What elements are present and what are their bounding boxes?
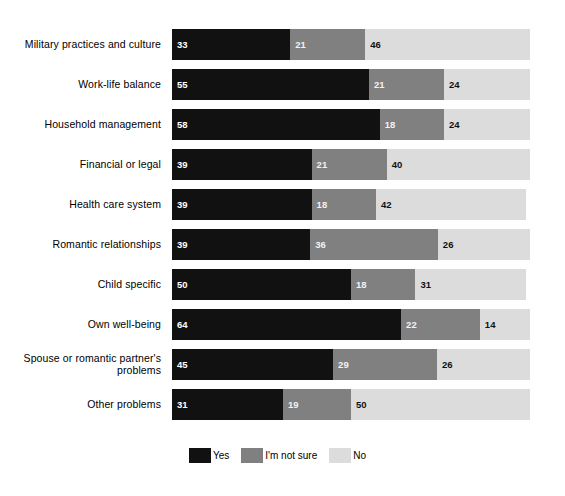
bar-segment: 24	[444, 109, 530, 140]
bar-segment: 21	[290, 29, 365, 60]
stacked-bar: 501831	[172, 269, 530, 300]
bar-segment: 29	[333, 349, 437, 380]
stacked-bar-chart: Military practices and culture332146Work…	[0, 0, 565, 496]
stacked-bar: 642214	[172, 309, 530, 340]
bar-segment: 22	[401, 309, 480, 340]
bar-segment: 50	[172, 269, 351, 300]
category-label: Health care system	[0, 198, 172, 211]
bar-value-label: 31	[172, 399, 188, 410]
bar-value-label: 42	[376, 199, 392, 210]
bar-segment: 33	[172, 29, 290, 60]
bar-segment: 55	[172, 69, 369, 100]
stacked-bar: 452926	[172, 349, 530, 380]
category-label: Financial or legal	[0, 158, 172, 171]
category-label: Romantic relationships	[0, 238, 172, 251]
stacked-bar: 581824	[172, 109, 530, 140]
bar-value-label: 31	[415, 279, 431, 290]
bar-segment: 18	[312, 189, 376, 220]
bar-segment: 14	[480, 309, 530, 340]
bar-segment: 26	[438, 229, 530, 260]
bar-segment: 40	[387, 149, 530, 180]
stacked-bar: 392140	[172, 149, 530, 180]
chart-row: Other problems311950	[0, 384, 565, 424]
bar-value-label: 46	[365, 39, 381, 50]
bar-value-label: 29	[333, 359, 349, 370]
legend-swatch-icon	[329, 448, 351, 463]
bar-value-label: 21	[369, 79, 385, 90]
bar-value-label: 18	[351, 279, 367, 290]
bar-value-label: 26	[438, 239, 454, 250]
bar-value-label: 21	[312, 159, 328, 170]
bar-value-label: 55	[172, 79, 188, 90]
bar-segment: 36	[310, 229, 438, 260]
chart-row: Financial or legal392140	[0, 144, 565, 184]
bar-value-label: 39	[172, 199, 188, 210]
chart-row: Child specific501831	[0, 264, 565, 304]
bar-segment: 21	[312, 149, 387, 180]
chart-row: Military practices and culture332146	[0, 24, 565, 64]
chart-row: Spouse or romantic partner's problems452…	[0, 344, 565, 384]
category-label: Own well-being	[0, 318, 172, 331]
legend-label: Yes	[211, 450, 239, 461]
legend-label: No	[351, 450, 376, 461]
bar-value-label: 36	[310, 239, 326, 250]
bar-segment: 45	[172, 349, 333, 380]
bar-value-label: 21	[290, 39, 306, 50]
stacked-bar: 391842	[172, 189, 530, 220]
bar-segment: 26	[437, 349, 530, 380]
bar-segment: 39	[172, 149, 312, 180]
bar-value-label: 24	[444, 119, 460, 130]
legend-swatch-icon	[189, 448, 211, 463]
legend-item[interactable]: I'm not sure	[241, 448, 327, 463]
bar-segment: 31	[172, 389, 283, 420]
legend-item[interactable]: Yes	[189, 448, 239, 463]
bar-segment: 18	[351, 269, 415, 300]
bar-value-label: 58	[172, 119, 188, 130]
chart-row: Health care system391842	[0, 184, 565, 224]
bar-value-label: 18	[312, 199, 328, 210]
bar-value-label: 24	[444, 79, 460, 90]
category-label: Child specific	[0, 278, 172, 291]
bar-segment: 31	[415, 269, 526, 300]
category-label: Military practices and culture	[0, 38, 172, 51]
bar-segment: 18	[380, 109, 444, 140]
bar-segment: 46	[365, 29, 530, 60]
chart-row: Romantic relationships393626	[0, 224, 565, 264]
bar-value-label: 26	[437, 359, 453, 370]
chart-row: Household management581824	[0, 104, 565, 144]
stacked-bar: 393626	[172, 229, 530, 260]
bar-segment: 50	[351, 389, 530, 420]
bar-value-label: 40	[387, 159, 403, 170]
bar-value-label: 33	[172, 39, 188, 50]
category-label: Household management	[0, 118, 172, 131]
bar-segment: 21	[369, 69, 444, 100]
bar-segment: 39	[172, 229, 310, 260]
bar-segment: 42	[376, 189, 526, 220]
stacked-bar: 552124	[172, 69, 530, 100]
stacked-bar: 332146	[172, 29, 530, 60]
bar-segment: 24	[444, 69, 530, 100]
bar-value-label: 64	[172, 319, 188, 330]
bar-segment: 64	[172, 309, 401, 340]
bar-value-label: 22	[401, 319, 417, 330]
bar-value-label: 14	[480, 319, 496, 330]
bar-value-label: 50	[351, 399, 367, 410]
category-label: Spouse or romantic partner's problems	[0, 352, 172, 377]
legend-label: I'm not sure	[263, 450, 327, 461]
chart-plot-area: Military practices and culture332146Work…	[0, 24, 565, 424]
bar-segment: 39	[172, 189, 312, 220]
chart-row: Own well-being642214	[0, 304, 565, 344]
bar-value-label: 39	[172, 159, 188, 170]
legend-swatch-icon	[241, 448, 263, 463]
legend-item[interactable]: No	[329, 448, 376, 463]
stacked-bar: 311950	[172, 389, 530, 420]
bar-value-label: 39	[172, 239, 188, 250]
bar-value-label: 50	[172, 279, 188, 290]
bar-segment: 58	[172, 109, 380, 140]
category-label: Other problems	[0, 398, 172, 411]
bar-value-label: 18	[380, 119, 396, 130]
bar-value-label: 45	[172, 359, 188, 370]
bar-segment: 19	[283, 389, 351, 420]
bar-value-label: 19	[283, 399, 299, 410]
category-label: Work-life balance	[0, 78, 172, 91]
